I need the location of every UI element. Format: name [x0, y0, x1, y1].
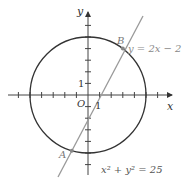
point-b-label: B — [116, 35, 124, 46]
circle-equation-label: x² + y² = 25 — [101, 164, 163, 175]
y-axis-label: y — [76, 5, 84, 18]
y-unit-label: 1 — [78, 78, 84, 89]
x-axis — [8, 92, 172, 98]
origin-label: O — [77, 98, 85, 109]
point-a-label: A — [58, 149, 66, 160]
point-a-marker — [70, 149, 74, 153]
x-unit-label: 1 — [95, 100, 101, 111]
line-equation-label: y = 2x − 2 — [127, 43, 182, 54]
point-b-marker — [121, 47, 125, 51]
x-axis-label: x — [167, 100, 174, 113]
diagram-canvas: y x O 1 1 B A y = 2x − 2 x² + y² = 25 — [0, 0, 184, 191]
